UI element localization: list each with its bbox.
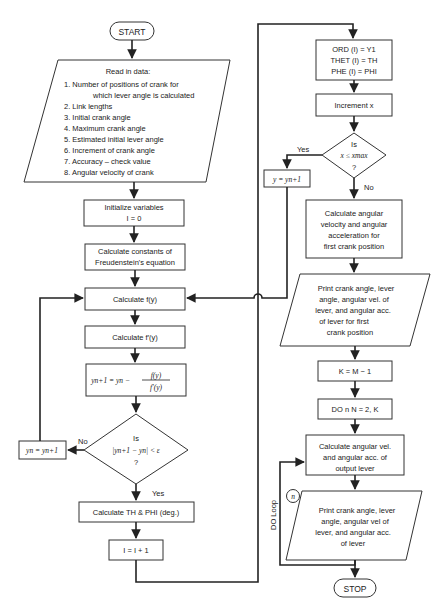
svg-text:angle, angular vel. of: angle, angular vel. of	[319, 295, 390, 304]
svg-text:I = 0: I = 0	[127, 214, 142, 223]
svg-text:Increment x: Increment x	[334, 101, 373, 110]
calc-first-box: Calculate angular velocity and angular a…	[306, 200, 402, 258]
svg-text:Print crank angle, lever: Print crank angle, lever	[319, 506, 396, 515]
svg-text:x ≤ xmax: x ≤ xmax	[339, 151, 368, 160]
svg-text:?: ?	[134, 458, 138, 467]
do-loop-start-box: DO n N = 2, K	[318, 399, 392, 419]
set-y-box: y = yn+1	[264, 170, 310, 187]
svg-text:y = yn+1: y = yn+1	[272, 175, 301, 184]
svg-text:Initialize variables: Initialize variables	[104, 203, 163, 212]
x-check-decision: Is x ≤ xmax ?	[322, 133, 386, 178]
svg-text:Calculate angular: Calculate angular	[325, 209, 384, 218]
svg-text:output lever: output lever	[335, 464, 375, 473]
read-data-item: 5. Estimated initial lever angle	[64, 135, 164, 144]
svg-text:f′(y): f′(y)	[150, 383, 163, 392]
svg-text:Calculate TH & PHI (deg.): Calculate TH & PHI (deg.)	[93, 508, 180, 517]
svg-text:Print crank angle, lever: Print crank angle, lever	[318, 284, 395, 293]
svg-text:Freudenstein's equation: Freudenstein's equation	[95, 258, 175, 267]
read-data-item: 8. Angular velocity of crank	[64, 168, 154, 177]
start-terminal: START	[110, 22, 154, 40]
svg-text:and angular acc. of: and angular acc. of	[323, 453, 388, 462]
initialize-box: Initialize variables I = 0	[84, 200, 184, 226]
svg-text:THET (I) = TH: THET (I) = TH	[330, 56, 377, 65]
print-loop-output: Print crank angle, lever angle, angular …	[286, 491, 422, 560]
svg-text:of lever for first: of lever for first	[319, 317, 370, 326]
read-data-item: 1. Number of positions of crank for	[64, 80, 179, 89]
svg-text:of lever: of lever	[341, 539, 366, 548]
svg-text:Is: Is	[351, 140, 357, 149]
svg-text:acceleration for: acceleration for	[328, 231, 380, 240]
read-data-item: 6. Increment of crank angle	[64, 146, 155, 155]
svg-text:|yn+1 − yn| < ε: |yn+1 − yn| < ε	[112, 446, 160, 455]
svg-text:Calculate angular vel.: Calculate angular vel.	[319, 442, 391, 451]
svg-text:velocity and angular: velocity and angular	[321, 220, 388, 229]
svg-text:Calculate f(y): Calculate f(y)	[113, 295, 158, 304]
svg-text:I = I + 1: I = I + 1	[123, 546, 148, 555]
constants-box: Calculate constants of Freudenstein's eq…	[85, 244, 185, 270]
loop-back-connector	[40, 298, 83, 441]
update-y-box: yn = yn+1	[19, 441, 66, 459]
svg-text:lever, and angular acc.: lever, and angular acc.	[315, 306, 390, 315]
recompute-connector	[187, 187, 287, 298]
yes-label: Yes	[152, 489, 164, 498]
svg-text:PHE (I) = PHI: PHE (I) = PHI	[331, 67, 377, 76]
newton-step-box: yn+1 = yn − f(y) f′(y)	[86, 364, 186, 396]
store-values-box: ORD (I) = Y1 THET (I) = TH PHE (I) = PHI	[316, 40, 392, 80]
svg-text:Calculate f′(y): Calculate f′(y)	[112, 333, 158, 342]
read-data-item: 2. Link lengths	[64, 102, 113, 111]
svg-text:?: ?	[352, 163, 356, 172]
svg-text:crank position: crank position	[327, 328, 373, 337]
svg-text:K = M − 1: K = M − 1	[339, 367, 372, 376]
svg-text:lever, and angular acc.: lever, and angular acc.	[315, 528, 390, 537]
calc-th-phi-box: Calculate TH & PHI (deg.)	[79, 502, 194, 522]
svg-text:f(y): f(y)	[151, 371, 162, 380]
do-loop-label: DO Loop	[269, 500, 278, 530]
svg-text:yn = yn+1: yn = yn+1	[25, 446, 58, 455]
connector	[287, 155, 322, 168]
read-data-item: which lever angle is calculated	[92, 91, 194, 100]
yes-label: Yes	[297, 145, 309, 154]
svg-text:DO n N = 2, K: DO n N = 2, K	[332, 405, 379, 414]
increment-i-box: I = I + 1	[109, 540, 163, 560]
convergence-decision: Is |yn+1 − yn| < ε ?	[84, 414, 188, 484]
svg-text:angle, angular vel of: angle, angular vel of	[321, 517, 389, 526]
read-data-item: 4. Maximum crank angle	[64, 124, 146, 133]
svg-text:ORD (I) = Y1: ORD (I) = Y1	[332, 45, 375, 54]
calc-f-box: Calculate f(y)	[85, 288, 185, 310]
svg-text:n: n	[291, 492, 295, 501]
loop-connector-node: n	[287, 490, 300, 503]
flowchart: START Read in data: 1. Number of positio…	[0, 0, 446, 605]
read-data-item: 3. Initial crank angle	[64, 113, 131, 122]
read-data-title: Read in data:	[106, 67, 151, 76]
svg-text:yn+1 = yn −: yn+1 = yn −	[90, 376, 130, 385]
svg-text:Calculate constants of: Calculate constants of	[98, 247, 173, 256]
no-label: No	[364, 183, 374, 192]
svg-text:STOP: STOP	[344, 584, 367, 594]
increment-x-box: Increment x	[316, 94, 392, 116]
print-first-output: Print crank angle, lever angle, angular …	[280, 274, 430, 346]
no-label: No	[78, 437, 88, 446]
svg-text:first crank position: first crank position	[324, 242, 384, 251]
svg-text:Is: Is	[133, 434, 139, 443]
read-data-item: 7. Accuracy – check value	[64, 157, 151, 166]
k-assign-box: K = M − 1	[318, 361, 392, 381]
calc-fprime-box: Calculate f′(y)	[85, 326, 185, 348]
svg-text:START: START	[118, 27, 145, 37]
read-data-input: Read in data: 1. Number of positions of …	[24, 60, 230, 182]
calc-output-lever-box: Calculate angular vel. and angular acc. …	[306, 435, 404, 475]
stop-terminal: STOP	[334, 579, 376, 597]
